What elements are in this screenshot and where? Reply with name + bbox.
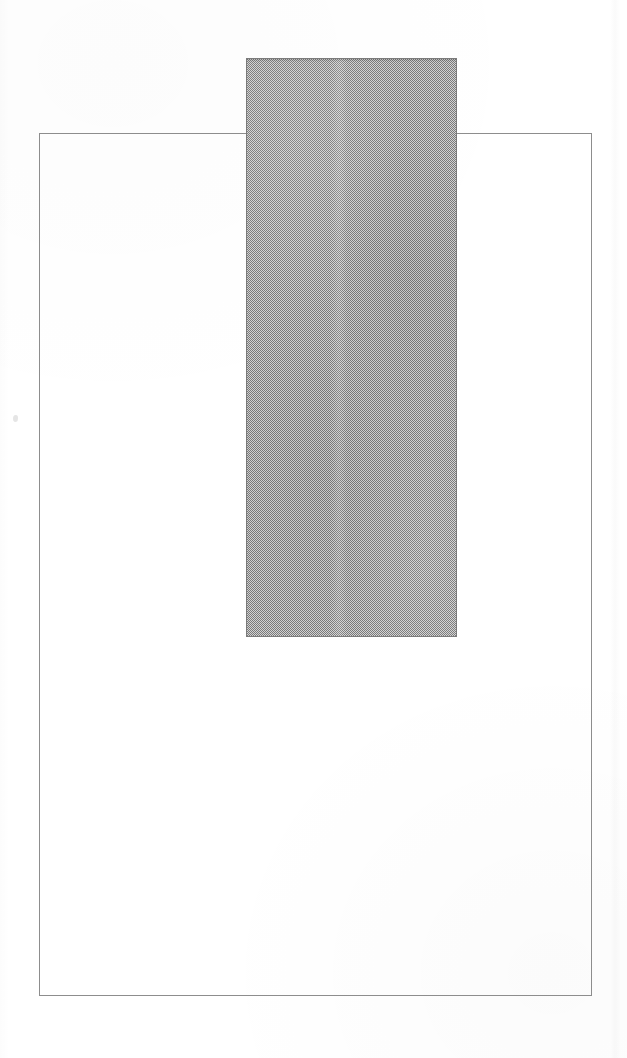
scan-band-artifact: [610, 0, 621, 1058]
halftone-top-edge-ink: [247, 59, 456, 62]
halftone-rectangle: [246, 58, 457, 637]
halftone-mottle: [247, 59, 456, 636]
scanned-page: [0, 0, 627, 1058]
